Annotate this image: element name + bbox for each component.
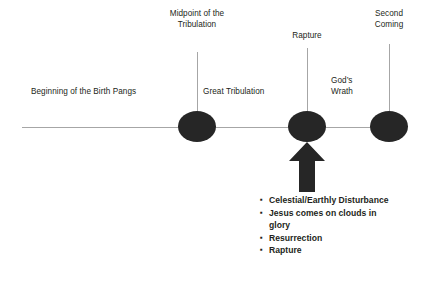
event-detail-list: ▪ Celestial/Earthly Disturbance ▪ Jesus …: [258, 194, 393, 257]
list-item-label: Rapture: [269, 244, 393, 257]
timeline-diagram: Midpoint of the Tribulation Rapture Seco…: [0, 0, 431, 289]
label-beginning-of-birth-pangs: Beginning of the Birth Pangs: [31, 86, 201, 97]
list-item: ▪ Resurrection: [258, 232, 393, 245]
list-item: ▪ Rapture: [258, 244, 393, 257]
list-item: ▪ Celestial/Earthly Disturbance: [258, 194, 393, 207]
bullet-marker-icon: ▪: [258, 244, 269, 257]
node-rapture: [288, 111, 326, 142]
bullet-marker-icon: ▪: [258, 194, 269, 207]
bullet-marker-icon: ▪: [258, 207, 269, 220]
label-midpoint-of-tribulation: Midpoint of the Tribulation: [146, 8, 248, 30]
list-item-label: Celestial/Earthly Disturbance: [269, 194, 393, 207]
label-gods-wrath: God’s Wrath: [331, 75, 377, 97]
label-great-tribulation: Great Tribulation: [203, 86, 313, 97]
list-item: ▪ Jesus comes on clouds in glory: [258, 207, 393, 232]
upward-arrow-icon: [288, 142, 326, 192]
list-item-label: Resurrection: [269, 232, 393, 245]
label-rapture: Rapture: [274, 30, 340, 41]
bullet-marker-icon: ▪: [258, 232, 269, 245]
node-second-coming: [370, 111, 408, 142]
node-midpoint: [178, 111, 216, 142]
list-item-label: Jesus comes on clouds in glory: [269, 207, 393, 232]
label-second-coming: Second Coming: [360, 8, 418, 30]
